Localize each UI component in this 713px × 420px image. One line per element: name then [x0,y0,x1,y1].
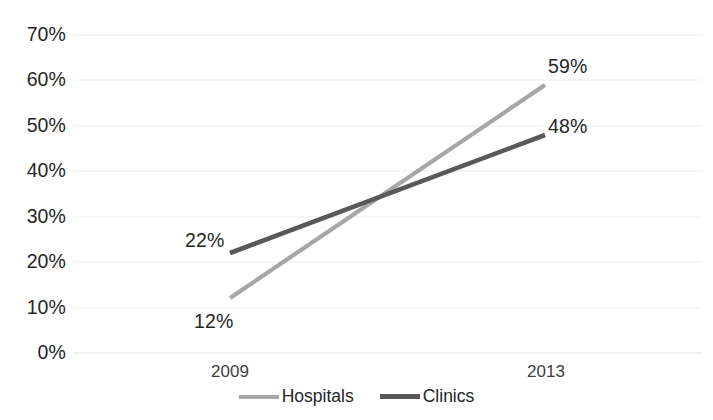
series-line-clinics [230,135,545,253]
series-line-hospitals [230,85,545,298]
plot-area: 12% 59% 22% 48% [0,0,713,420]
line-chart: 70% 60% 50% 40% 30% 20% 10% 0% [0,0,713,420]
legend-item-clinics[interactable]: Clinics [380,388,475,406]
legend-swatch-hospitals-icon [239,395,279,399]
x-tick-label-2013: 2013 [527,363,565,380]
data-label-clinics-2013: 48% [548,117,587,137]
x-tick-label-2009: 2009 [211,363,249,380]
chart-legend: Hospitals Clinics [0,388,713,406]
legend-swatch-clinics-icon [380,394,420,399]
legend-label-hospitals: Hospitals [282,388,354,406]
data-label-clinics-2009: 22% [185,231,224,251]
plot-svg [0,0,713,420]
legend-item-hospitals[interactable]: Hospitals [239,388,354,406]
data-label-hospitals-2009: 12% [194,312,233,332]
legend-label-clinics: Clinics [423,388,475,406]
data-label-hospitals-2013: 59% [548,57,587,77]
